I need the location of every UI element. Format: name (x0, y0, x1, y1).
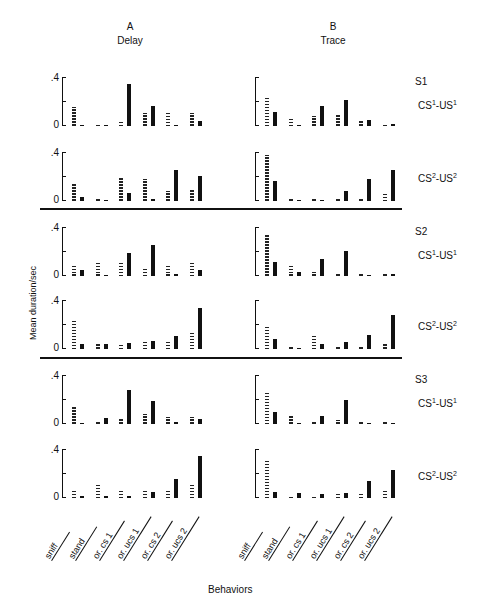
bar-cs (289, 118, 293, 126)
y-axis-label: Mean duration/sec (28, 266, 38, 340)
bar-panel: .40 (62, 449, 212, 498)
bar-ucs (367, 120, 371, 126)
condition-label: CS1-US1 (418, 395, 457, 410)
bar-ucs (104, 125, 108, 127)
bar-cs (72, 491, 76, 498)
bar-cs (383, 422, 387, 424)
bar-cs (143, 490, 147, 498)
column-name: Trace (293, 34, 373, 48)
bar-cs (312, 496, 316, 498)
bar-cs (96, 344, 100, 349)
y-tick (62, 324, 66, 325)
bar-ucs (391, 124, 395, 126)
bar-ucs (127, 343, 131, 349)
y-tick-label: 0 (45, 270, 59, 280)
y-tick (62, 423, 66, 424)
y-tick (255, 77, 259, 78)
bar-panel: .40 (62, 300, 212, 349)
bar-ucs (198, 456, 202, 498)
y-tick (62, 497, 66, 498)
bar-cs (166, 490, 170, 498)
bar-ucs (151, 106, 155, 126)
bar-ucs (320, 200, 324, 202)
bar-cs (96, 199, 100, 201)
bar-ucs (297, 423, 301, 425)
y-tick (62, 152, 66, 153)
bar-cs (72, 407, 76, 424)
bar-ucs (80, 344, 84, 349)
bar-ucs (127, 390, 131, 424)
bar-ucs (320, 259, 324, 276)
y-tick (62, 375, 66, 376)
y-tick (255, 300, 259, 301)
bar-ucs (297, 125, 301, 127)
bar-cs (336, 492, 340, 498)
y-tick (62, 275, 66, 276)
y-tick-label: 0 (45, 492, 59, 502)
bar-cs (190, 484, 194, 498)
bar-cs (312, 199, 316, 201)
bar-cs (72, 266, 76, 276)
bar-cs (143, 342, 147, 349)
bar-cs (119, 121, 123, 126)
bar-ucs (367, 179, 371, 201)
y-tick (255, 348, 259, 349)
bar-cs (190, 262, 194, 276)
bar-ucs (367, 275, 371, 277)
bar-ucs (151, 245, 155, 276)
bar-cs (289, 347, 293, 349)
bar-cs (96, 263, 100, 276)
bar-ucs (367, 481, 371, 498)
x-category-label-wrapper: sniff (236, 526, 264, 561)
bar-ucs (104, 344, 108, 349)
bar-cs (143, 268, 147, 276)
bar-cs (143, 414, 147, 424)
bar-ucs (174, 479, 178, 498)
bar-cs (336, 347, 340, 349)
bar-ucs (344, 100, 348, 126)
column-header-a: A Delay (90, 20, 170, 48)
y-tick (255, 275, 259, 276)
bar-cs (190, 333, 194, 349)
bar-ucs (367, 423, 371, 425)
y-tick-label: .4 (45, 445, 59, 455)
y-tick-label: .4 (45, 148, 59, 158)
bar-cs (265, 97, 269, 126)
y-tick (255, 497, 259, 498)
bar-ucs (80, 423, 84, 425)
y-tick (62, 399, 66, 400)
bar-cs (383, 344, 387, 349)
bar-cs (96, 124, 100, 126)
bar-cs (166, 112, 170, 126)
bar-cs (336, 114, 340, 126)
bar-ucs (127, 193, 131, 201)
bar-cs (166, 417, 170, 424)
y-tick (62, 348, 66, 349)
y-tick (62, 125, 66, 126)
y-tick (255, 449, 259, 450)
y-tick (62, 449, 66, 450)
y-tick-label: 0 (45, 343, 59, 353)
bar-cs (359, 199, 363, 201)
bar-cs (166, 191, 170, 201)
y-tick (255, 324, 259, 325)
bar-cs (289, 266, 293, 276)
bar-cs (336, 274, 340, 276)
bar-ucs (320, 416, 324, 424)
bar-ucs (320, 344, 324, 349)
bar-ucs (297, 348, 301, 350)
condition-label: CS2-US2 (418, 170, 457, 185)
bar-ucs (174, 170, 178, 201)
y-tick (255, 200, 259, 201)
bar-cs (190, 113, 194, 126)
bar-ucs (391, 274, 395, 276)
bar-ucs (80, 197, 84, 201)
y-tick (62, 300, 66, 301)
bar-panel: .40 (62, 375, 212, 424)
bar-ucs (127, 84, 131, 126)
y-tick (62, 77, 66, 78)
bar-panel (255, 227, 405, 276)
subject-label-s2: S2 (415, 226, 427, 238)
bar-cs (336, 199, 340, 201)
bar-cs (119, 491, 123, 498)
